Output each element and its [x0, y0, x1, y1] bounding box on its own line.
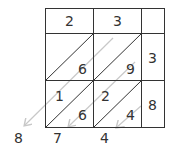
cell-ones: 6: [78, 62, 87, 76]
cell-ones: 9: [126, 62, 135, 76]
cell-tens: 2: [101, 89, 110, 103]
grid-lines: [45, 8, 165, 128]
lattice-diagram: [0, 0, 174, 151]
multiplier-digit: 8: [148, 98, 157, 112]
cell-tens: 1: [55, 89, 64, 103]
multiplier-digit: 3: [148, 51, 157, 65]
multiplicand-digit: 2: [65, 14, 74, 28]
result-digit: 7: [53, 131, 62, 145]
cell-ones: 6: [78, 108, 87, 122]
cell-ones: 4: [126, 108, 135, 122]
result-digit: 4: [100, 131, 109, 145]
multiplicand-digit: 3: [113, 14, 122, 28]
result-digit: 8: [14, 131, 23, 145]
